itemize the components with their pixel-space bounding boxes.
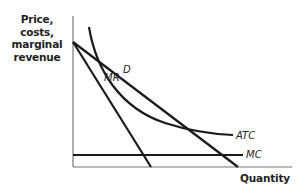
mr-curve <box>73 42 151 167</box>
mr-label: MR <box>104 72 120 83</box>
mc-label: MC <box>246 149 262 160</box>
x-axis-label: Quantity <box>240 172 290 184</box>
atc-label: ATC <box>235 130 255 141</box>
diagram-canvas: MR D ATC MC <box>0 0 298 191</box>
d-label: D <box>123 64 131 75</box>
